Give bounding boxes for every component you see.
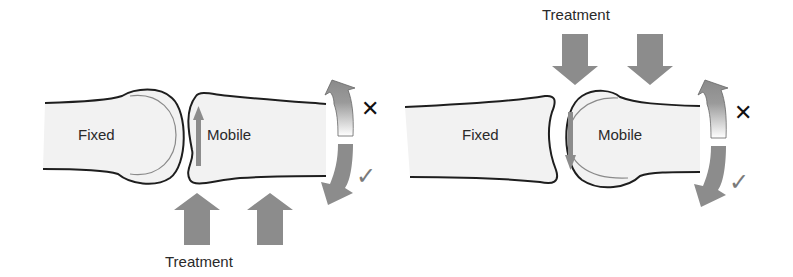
left-wrong-mark-icon: ✕ — [361, 96, 379, 121]
right-mobile-bone: Mobile — [565, 91, 700, 187]
right-treatment-arrow-2-icon — [627, 34, 673, 85]
right-treatment-label: Treatment — [542, 6, 611, 23]
left-treatment-label: Treatment — [165, 253, 234, 270]
right-rotation-arrow-up-icon — [698, 80, 728, 138]
right-fixed-label: Fixed — [462, 126, 499, 143]
left-rotation-arrow-up-icon — [325, 80, 355, 136]
left-mobile-label: Mobile — [207, 126, 251, 143]
right-panel: Treatment Fixed Mobile — [405, 6, 752, 207]
right-mobile-label: Mobile — [598, 126, 642, 143]
left-mobile-bone: Mobile — [188, 93, 326, 183]
left-right-mark-icon: ✓ — [356, 162, 376, 190]
left-treatment-arrow-1-icon — [174, 193, 220, 245]
right-right-mark-icon: ✓ — [729, 168, 749, 196]
left-treatment-arrow-2-icon — [247, 193, 293, 245]
right-wrong-mark-icon: ✕ — [734, 100, 752, 125]
left-fixed-label: Fixed — [78, 126, 115, 143]
left-panel: Fixed Mobile ✕ ✓ Treatment — [43, 80, 379, 270]
diagram-canvas: Fixed Mobile ✕ ✓ Treatment — [0, 0, 793, 277]
right-fixed-bone: Fixed — [405, 96, 557, 183]
right-treatment-arrow-1-icon — [552, 34, 598, 85]
left-fixed-bone: Fixed — [43, 90, 184, 184]
